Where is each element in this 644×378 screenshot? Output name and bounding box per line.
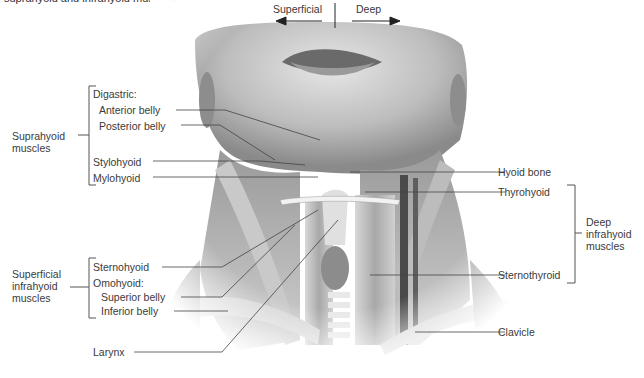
superficial-infrahyoid-group-title: Superficial infrahyoid muscles — [12, 268, 61, 304]
group-title-line: muscles — [12, 292, 61, 304]
label-hyoid-bone: Hyoid bone — [498, 166, 551, 178]
group-title-line: infrahyoid — [586, 228, 632, 240]
group-title-line: Deep — [586, 216, 632, 228]
deep-infrahyoid-bracket — [567, 185, 575, 283]
label-thyrohyoid: Thyrohyoid — [498, 186, 550, 198]
group-title-line: Suprahyoid — [12, 130, 65, 142]
label-posterior-belly: Posterior belly — [99, 120, 166, 132]
label-inferior-belly: Inferior belly — [101, 305, 158, 317]
label-larynx: Larynx — [93, 346, 125, 358]
label-sternothyroid: Sternothyroid — [498, 269, 560, 281]
label-omohyoid: Omohyoid: — [93, 277, 144, 289]
label-anterior-belly: Anterior belly — [99, 104, 160, 116]
label-sternohyoid: Sternohyoid — [93, 261, 149, 273]
label-mylohyoid: Mylohyoid — [93, 172, 140, 184]
label-superior-belly: Superior belly — [101, 291, 165, 303]
deep-infrahyoid-group-title: Deep infrahyoid muscles — [586, 216, 632, 252]
suprahyoid-bracket — [89, 86, 96, 185]
suprahyoid-group-title: Suprahyoid muscles — [12, 130, 65, 154]
group-title-line: muscles — [12, 142, 65, 154]
group-title-line: muscles — [586, 240, 632, 252]
group-title-line: infrahyoid — [12, 280, 61, 292]
label-digastric: Digastric: — [93, 88, 137, 100]
label-stylohyoid: Stylohyoid — [93, 156, 141, 168]
deep-direction-label: Deep — [356, 3, 381, 15]
superficial-direction-label: Superficial — [273, 3, 322, 15]
label-clavicle: Clavicle — [498, 326, 535, 338]
group-title-line: Superficial — [12, 268, 61, 280]
